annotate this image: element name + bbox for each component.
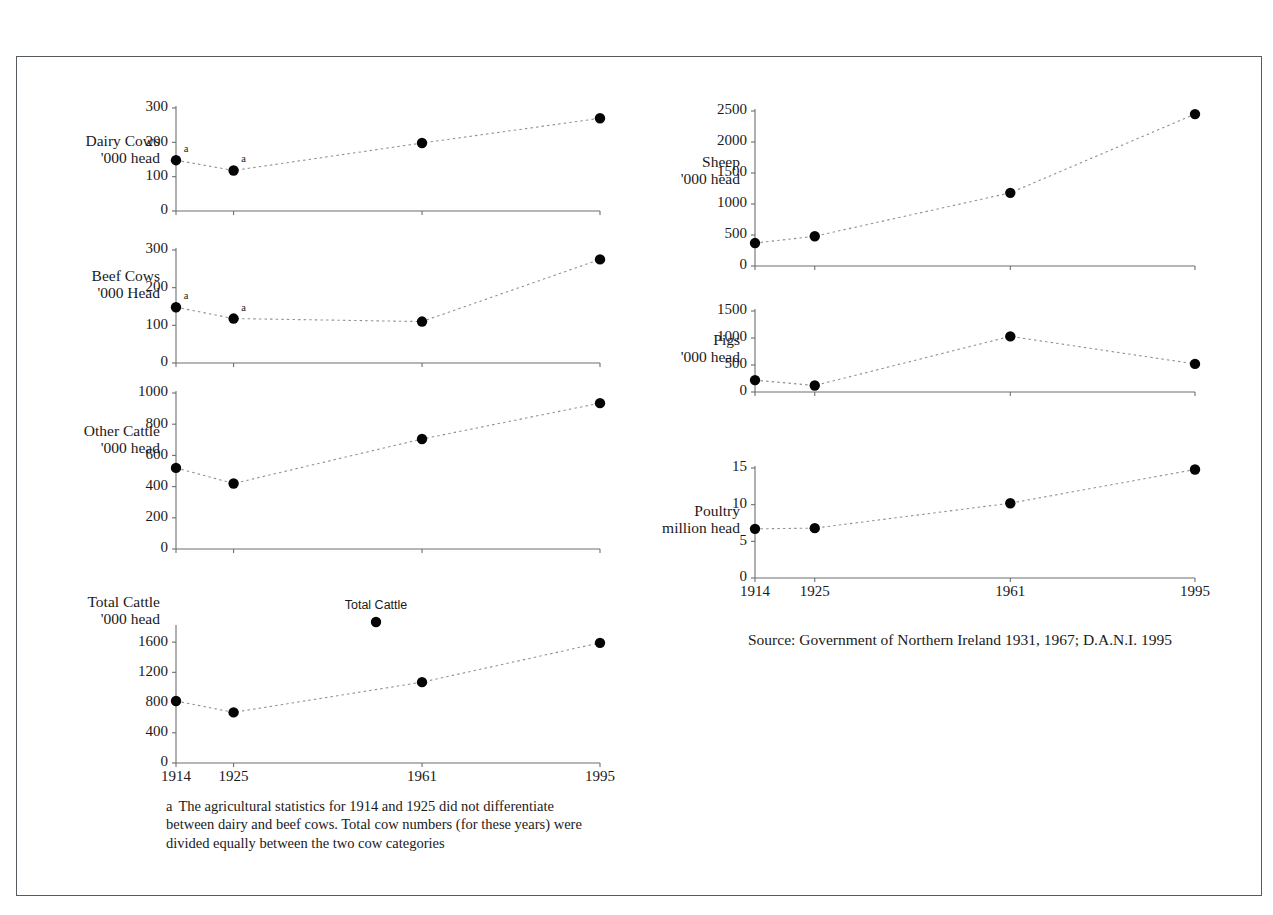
panel-units-beef-cows: '000 Head [97,284,160,301]
data-point-1995[interactable] [1190,109,1200,119]
x-tick-label-1995: 1995 [1180,583,1210,599]
data-point-1914[interactable] [171,302,181,312]
panel-units-other-cattle: '000 head [101,439,160,456]
y-tick-label-800: 800 [146,693,169,709]
multi-panel-chart: 0100200300aaDairy Cows'000 head010020030… [0,0,1273,915]
panel-beef-cows: 0100200300aaBeef Cows'000 Head [92,240,606,369]
panel-sheep: 05001000150020002500Sheep'000 head [681,101,1200,272]
panel-dairy-cows: 0100200300aaDairy Cows'000 head [86,98,606,217]
footnote-marker-1914: a [184,290,189,301]
x-tick-label-1961: 1961 [995,583,1025,599]
panel-total-cattle: 0400800120016001914192519611995Total Cat… [87,593,615,784]
data-point-1961[interactable] [417,677,427,687]
data-point-1961[interactable] [1005,331,1015,341]
panel-units-dairy-cows: '000 head [101,149,160,166]
y-tick-label-2000: 2000 [717,132,747,148]
series-line [176,118,600,170]
data-point-1914[interactable] [750,238,760,248]
legend-marker [371,617,381,627]
x-tick-label-1914: 1914 [161,768,192,784]
panel-label-dairy-cows: Dairy Cows [86,132,160,149]
x-tick-label-1995: 1995 [585,768,615,784]
series-line [176,643,600,713]
data-point-1925[interactable] [810,380,820,390]
y-tick-label-100: 100 [146,167,169,183]
y-tick-label-200: 200 [146,508,169,524]
panel-label-beef-cows: Beef Cows [92,267,160,284]
panel-other-cattle: 02004006008001000Other Cattle'000 head [84,383,605,555]
series-line [755,114,1195,243]
y-tick-label-0: 0 [740,256,748,272]
y-tick-label-0: 0 [740,382,748,398]
series-line [176,403,600,483]
data-point-1914[interactable] [750,524,760,534]
data-point-1995[interactable] [1190,464,1200,474]
data-point-1961[interactable] [417,138,427,148]
panel-units-poultry: million head [662,519,740,536]
data-point-1925[interactable] [228,165,238,175]
source-note: Source: Government of Northern Ireland 1… [748,631,1172,649]
y-tick-label-0: 0 [740,568,748,584]
data-point-1925[interactable] [810,523,820,533]
y-tick-label-1200: 1200 [138,663,168,679]
data-point-1961[interactable] [1005,188,1015,198]
data-point-1961[interactable] [417,434,427,444]
data-point-1961[interactable] [417,316,427,326]
y-tick-label-0: 0 [161,201,169,217]
y-tick-label-500: 500 [725,225,748,241]
data-point-1914[interactable] [171,463,181,473]
panel-pigs: 050010001500Pigs'000 head [681,301,1200,398]
x-tick-label-1925: 1925 [219,768,249,784]
footnote-marker-1925: a [241,302,246,313]
y-tick-label-5: 5 [740,532,748,548]
data-point-1914[interactable] [750,375,760,385]
footnote-text: The agricultural statistics for 1914 and… [166,798,582,851]
panel-units-total-cattle: '000 head [101,610,160,627]
data-point-1995[interactable] [595,113,605,123]
footnote: aThe agricultural statistics for 1914 an… [166,797,596,852]
panel-poultry: 0510151914192519611995Poultrymillion hea… [662,458,1210,599]
panel-units-pigs: '000 head [681,348,740,365]
footnote-letter: a [166,798,172,814]
y-tick-label-1000: 1000 [717,194,747,210]
y-tick-label-0: 0 [161,353,169,369]
x-tick-label-1914: 1914 [740,583,771,599]
series-line [176,259,600,321]
data-point-1925[interactable] [228,313,238,323]
series-line [755,336,1195,385]
panel-label-sheep: Sheep [702,153,740,170]
y-tick-label-400: 400 [146,723,169,739]
footnote-marker-1925: a [241,153,246,164]
panel-label-poultry: Poultry [694,502,740,519]
y-tick-label-400: 400 [146,477,169,493]
legend-label: Total Cattle [345,598,408,612]
y-tick-label-2500: 2500 [717,101,747,117]
panel-units-sheep: '000 head [681,170,740,187]
data-point-1925[interactable] [228,707,238,717]
y-tick-label-1000: 1000 [138,383,168,399]
panel-label-total-cattle: Total Cattle [87,593,160,610]
data-point-1995[interactable] [595,398,605,408]
y-tick-label-15: 15 [732,458,747,474]
x-tick-label-1925: 1925 [800,583,830,599]
data-point-1995[interactable] [595,638,605,648]
panel-label-pigs: Pigs [713,331,740,348]
footnote-marker-1914: a [184,143,189,154]
y-tick-label-0: 0 [161,753,169,769]
series-line [755,469,1195,528]
data-point-1925[interactable] [810,231,820,241]
y-tick-label-1600: 1600 [138,633,168,649]
data-point-1914[interactable] [171,155,181,165]
y-tick-label-100: 100 [146,316,169,332]
data-point-1961[interactable] [1005,498,1015,508]
data-point-1914[interactable] [171,696,181,706]
data-point-1925[interactable] [228,478,238,488]
data-point-1995[interactable] [595,254,605,264]
panel-label-other-cattle: Other Cattle [84,422,160,439]
y-tick-label-1500: 1500 [717,301,747,317]
y-tick-label-0: 0 [161,539,169,555]
legend-total-cattle: Total Cattle [345,598,408,627]
x-tick-label-1961: 1961 [407,768,437,784]
data-point-1995[interactable] [1190,359,1200,369]
y-tick-label-300: 300 [146,98,169,114]
